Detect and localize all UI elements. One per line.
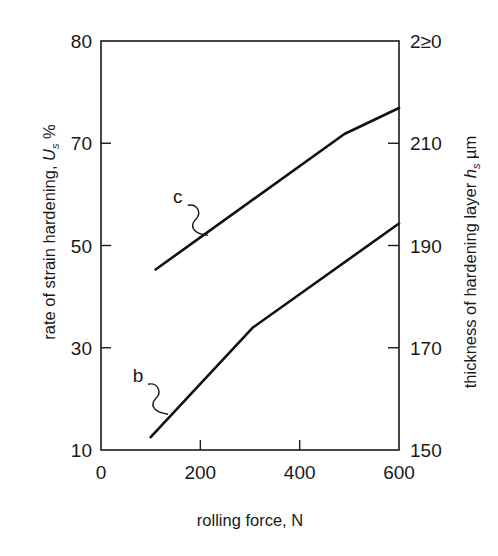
- y-tick-label: 80: [71, 31, 92, 52]
- y-axis-right-title-text: thickness of hardening layer: [461, 178, 479, 388]
- y-axis-right-ticks: 1501701902102≥0: [388, 31, 442, 461]
- y-tick-label: 70: [71, 133, 92, 154]
- y-axis-left-title-text: rate of strain hardening,: [40, 161, 58, 340]
- y-axis-right-title-unit: µm: [461, 136, 479, 164]
- y-tick-label: 30: [71, 338, 92, 359]
- x-tick-label: 200: [184, 462, 216, 483]
- x-axis-ticks: 0200400600: [96, 440, 415, 483]
- annotation-label-c: c: [173, 186, 183, 207]
- chart: 0200400600 1030507080 1501701902102≥0 cb…: [0, 0, 498, 556]
- y-tick-label: 10: [71, 440, 92, 461]
- y-axis-left-title: rate of strain hardening, Us %: [40, 124, 61, 340]
- x-tick-label: 400: [284, 462, 316, 483]
- y-right-tick-label: 170: [410, 338, 442, 359]
- y-axis-left-title-unit: %: [40, 124, 58, 144]
- y-axis-right-title-symbol: h: [461, 169, 479, 178]
- series-line-c: [156, 108, 399, 270]
- y-axis-left-ticks: 1030507080: [71, 31, 111, 461]
- y-axis-right-title: thickness of hardening layer hs µm: [461, 136, 482, 389]
- annotation-label-b: b: [133, 365, 144, 386]
- y-right-tick-label: 190: [410, 236, 442, 257]
- y-tick-label: 50: [71, 236, 92, 257]
- plot-frame: [101, 41, 399, 450]
- series-line-b: [151, 224, 399, 438]
- y-axis-left-title-symbol: U: [40, 149, 58, 161]
- series-group: [151, 108, 400, 437]
- annotation-leader-c: [188, 205, 208, 235]
- annotations: cb: [133, 186, 208, 414]
- y-right-tick-label: 210: [410, 133, 442, 154]
- y-right-tick-label: 2≥0: [410, 31, 442, 52]
- annotation-leader-b: [148, 384, 168, 414]
- x-axis-title: rolling force, N: [197, 511, 303, 529]
- x-tick-label: 0: [96, 462, 107, 483]
- y-right-tick-label: 150: [410, 440, 442, 461]
- x-tick-label: 600: [383, 462, 415, 483]
